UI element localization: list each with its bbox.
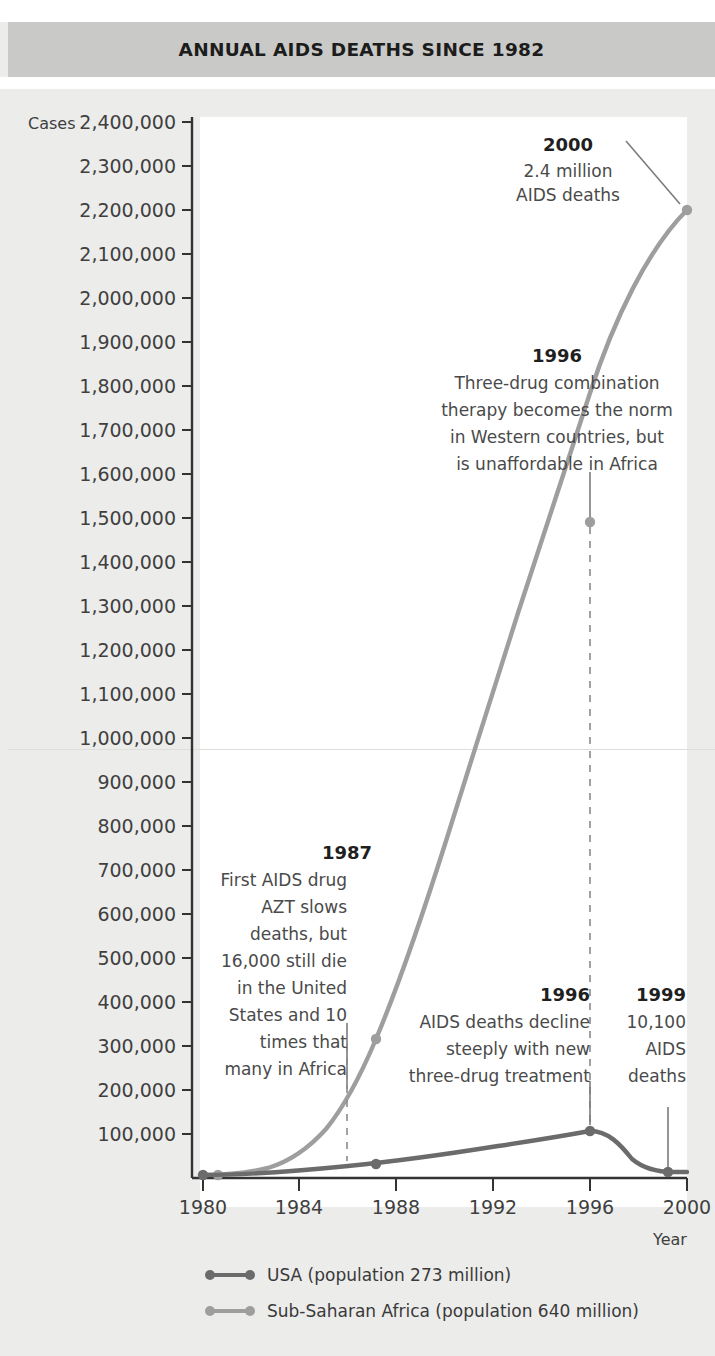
legend-swatch-dot-right-africa <box>245 1306 255 1316</box>
legend-label-usa: USA (population 273 million) <box>267 1265 511 1285</box>
annotation-line: in Western countries, but <box>450 427 664 447</box>
annotation-year: 1996 <box>540 984 590 1005</box>
y-tick-label: 1,100,000 <box>79 683 176 705</box>
y-tick-label: 2,400,000 <box>79 111 176 133</box>
legend-swatch-dot-right-usa <box>245 1270 255 1280</box>
y-tick-label: 100,000 <box>97 1123 176 1145</box>
y-tick-label: 400,000 <box>97 991 176 1013</box>
top-white-strip <box>0 0 715 22</box>
africa-marker-1987 <box>371 1034 381 1044</box>
chart-canvas: 2,400,000 2,300,000 2,200,000 2,100,000 … <box>8 89 715 1356</box>
annotation-line: 2.4 million <box>523 161 612 181</box>
x-tick-label: 2000 <box>663 1196 711 1218</box>
annotation-line: three-drug treatment <box>409 1066 590 1086</box>
y-tick-label: 900,000 <box>97 771 176 793</box>
y-tick-label: 1,700,000 <box>79 419 176 441</box>
annotation-line: in the United <box>237 978 347 998</box>
x-tick-marks <box>203 1178 687 1191</box>
x-tick-label: 1984 <box>275 1196 323 1218</box>
y-tick-label: 700,000 <box>97 859 176 881</box>
y-tick-label: 2,100,000 <box>79 243 176 265</box>
usa-marker-1999 <box>663 1167 673 1177</box>
x-tick-label: 1988 <box>372 1196 420 1218</box>
annotation-1996-africa: 1996 Three-drug combination therapy beco… <box>441 345 673 474</box>
x-axis-name: Year <box>652 1230 687 1249</box>
annotation-line: times that <box>260 1032 348 1052</box>
annotation-line: 10,100 <box>627 1012 686 1032</box>
y-tick-label: 1,900,000 <box>79 331 176 353</box>
annotation-2000: 2000 2.4 million AIDS deaths <box>516 134 620 205</box>
y-tick-label: 1,200,000 <box>79 639 176 661</box>
legend-swatch-dot-left-usa <box>205 1270 215 1280</box>
annotation-year: 1999 <box>636 984 686 1005</box>
y-tick-label: 2,200,000 <box>79 199 176 221</box>
y-tick-label: 1,600,000 <box>79 463 176 485</box>
x-tick-label: 1992 <box>469 1196 517 1218</box>
chart-legend: USA (population 273 million) Sub-Saharan… <box>205 1265 639 1321</box>
legend-swatch-dot-left-africa <box>205 1306 215 1316</box>
annotation-1996-usa: 1996 AIDS deaths decline steeply with ne… <box>409 984 590 1086</box>
annotation-1999: 1999 10,100 AIDS deaths <box>627 984 687 1086</box>
chart-page: ANNUAL AIDS DEATHS SINCE 1982 <box>0 0 715 1356</box>
annotation-line: First AIDS drug <box>221 870 347 890</box>
annotation-line: Three-drug combination <box>453 373 659 393</box>
annotation-1987: 1987 First AIDS drug AZT slows deaths, b… <box>221 842 373 1079</box>
annotation-line: AIDS deaths <box>516 185 620 205</box>
leader-2000 <box>626 141 680 204</box>
legend-label-africa: Sub-Saharan Africa (population 640 milli… <box>267 1301 639 1321</box>
x-tick-label: 1980 <box>179 1196 227 1218</box>
usa-marker-1996 <box>585 1126 595 1136</box>
annotation-line: States and 10 <box>229 1005 347 1025</box>
annotation-line: 16,000 still die <box>221 951 347 971</box>
usa-line <box>203 1131 687 1175</box>
y-tick-marks <box>182 122 192 1134</box>
y-tick-label: 300,000 <box>97 1035 176 1057</box>
y-tick-label: 1,400,000 <box>79 551 176 573</box>
chart-title-band: ANNUAL AIDS DEATHS SINCE 1982 <box>8 22 715 77</box>
legend-item-africa[interactable]: Sub-Saharan Africa (population 640 milli… <box>205 1301 639 1321</box>
y-axis-name: Cases <box>28 114 76 133</box>
y-tick-label: 1,000,000 <box>79 727 176 749</box>
series-usa <box>198 1126 687 1180</box>
africa-marker-1996 <box>585 517 595 527</box>
annotation-year: 1996 <box>532 345 582 366</box>
annotation-line: many in Africa <box>224 1059 347 1079</box>
y-tick-label: 2,300,000 <box>79 155 176 177</box>
title-band-gap <box>0 77 715 89</box>
page-title: ANNUAL AIDS DEATHS SINCE 1982 <box>179 39 545 60</box>
chart-body: 2,400,000 2,300,000 2,200,000 2,100,000 … <box>8 89 715 1356</box>
y-tick-label: 200,000 <box>97 1079 176 1101</box>
y-tick-labels: 2,400,000 2,300,000 2,200,000 2,100,000 … <box>79 111 176 1145</box>
usa-marker-1987 <box>371 1159 381 1169</box>
annotation-line: is unaffordable in Africa <box>456 454 658 474</box>
y-tick-label: 1,800,000 <box>79 375 176 397</box>
africa-marker-2000 <box>682 205 692 215</box>
annotation-year: 1987 <box>322 842 372 863</box>
annotation-line: deaths, but <box>250 924 347 944</box>
annotation-year: 2000 <box>543 134 593 155</box>
x-tick-label: 1996 <box>566 1196 614 1218</box>
annotation-line: AZT slows <box>261 897 347 917</box>
y-tick-label: 2,000,000 <box>79 287 176 309</box>
legend-item-usa[interactable]: USA (population 273 million) <box>205 1265 511 1285</box>
y-tick-label: 1,500,000 <box>79 507 176 529</box>
annotation-line: AIDS <box>645 1039 686 1059</box>
y-tick-label: 1,300,000 <box>79 595 176 617</box>
x-tick-labels: 1980 1984 1988 1992 1996 2000 <box>179 1196 711 1218</box>
annotation-line: AIDS deaths decline <box>419 1012 590 1032</box>
y-tick-label: 600,000 <box>97 903 176 925</box>
annotation-line: therapy becomes the norm <box>441 400 673 420</box>
y-tick-label: 800,000 <box>97 815 176 837</box>
y-tick-label: 500,000 <box>97 947 176 969</box>
annotation-line: deaths <box>628 1066 686 1086</box>
usa-marker-1980 <box>198 1170 208 1180</box>
annotation-line: steeply with new <box>446 1039 590 1059</box>
